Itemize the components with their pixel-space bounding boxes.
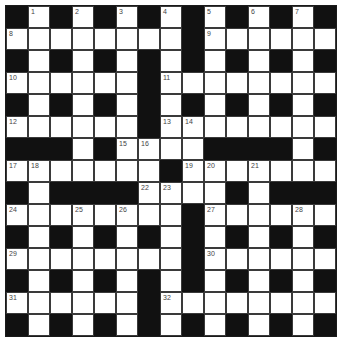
answer-cell[interactable]: [226, 72, 248, 94]
answer-cell[interactable]: [248, 50, 270, 72]
answer-cell[interactable]: [72, 72, 94, 94]
answer-cell[interactable]: [292, 94, 314, 116]
answer-cell[interactable]: [28, 182, 50, 204]
answer-cell[interactable]: [226, 28, 248, 50]
answer-cell[interactable]: 11: [160, 72, 182, 94]
answer-cell[interactable]: [50, 204, 72, 226]
answer-cell[interactable]: [204, 72, 226, 94]
answer-cell[interactable]: [292, 138, 314, 160]
answer-cell[interactable]: [50, 292, 72, 314]
answer-cell[interactable]: [72, 270, 94, 292]
answer-cell[interactable]: [226, 160, 248, 182]
answer-cell[interactable]: [50, 116, 72, 138]
answer-cell[interactable]: [226, 204, 248, 226]
answer-cell[interactable]: [160, 314, 182, 336]
answer-cell[interactable]: [94, 204, 116, 226]
answer-cell[interactable]: [204, 94, 226, 116]
answer-cell[interactable]: 20: [204, 160, 226, 182]
answer-cell[interactable]: [116, 28, 138, 50]
answer-cell[interactable]: [94, 248, 116, 270]
answer-cell[interactable]: [72, 28, 94, 50]
answer-cell[interactable]: [116, 314, 138, 336]
answer-cell[interactable]: [28, 94, 50, 116]
answer-cell[interactable]: [270, 204, 292, 226]
answer-cell[interactable]: [28, 248, 50, 270]
answer-cell[interactable]: [182, 72, 204, 94]
answer-cell[interactable]: [292, 270, 314, 292]
answer-cell[interactable]: [270, 72, 292, 94]
answer-cell[interactable]: [28, 270, 50, 292]
answer-cell[interactable]: [248, 72, 270, 94]
answer-cell[interactable]: 26: [116, 204, 138, 226]
answer-cell[interactable]: [226, 292, 248, 314]
answer-cell[interactable]: [72, 292, 94, 314]
answer-cell[interactable]: [160, 270, 182, 292]
answer-cell[interactable]: [72, 160, 94, 182]
answer-cell[interactable]: [116, 50, 138, 72]
answer-cell[interactable]: 27: [204, 204, 226, 226]
answer-cell[interactable]: [72, 94, 94, 116]
answer-cell[interactable]: [182, 138, 204, 160]
answer-cell[interactable]: [204, 116, 226, 138]
answer-cell[interactable]: [28, 72, 50, 94]
answer-cell[interactable]: [116, 248, 138, 270]
answer-cell[interactable]: 6: [248, 6, 270, 28]
answer-cell[interactable]: [50, 28, 72, 50]
answer-cell[interactable]: 28: [292, 204, 314, 226]
answer-cell[interactable]: [138, 160, 160, 182]
answer-cell[interactable]: [204, 292, 226, 314]
answer-cell[interactable]: [270, 28, 292, 50]
answer-cell[interactable]: [314, 292, 336, 314]
answer-cell[interactable]: [50, 72, 72, 94]
answer-cell[interactable]: [248, 204, 270, 226]
answer-cell[interactable]: [270, 160, 292, 182]
answer-cell[interactable]: [204, 182, 226, 204]
answer-cell[interactable]: [248, 226, 270, 248]
answer-cell[interactable]: [160, 138, 182, 160]
answer-cell[interactable]: 23: [160, 182, 182, 204]
answer-cell[interactable]: 13: [160, 116, 182, 138]
answer-cell[interactable]: [314, 204, 336, 226]
answer-cell[interactable]: [292, 72, 314, 94]
answer-cell[interactable]: [248, 314, 270, 336]
answer-cell[interactable]: 3: [116, 6, 138, 28]
answer-cell[interactable]: [50, 248, 72, 270]
answer-cell[interactable]: 7: [292, 6, 314, 28]
answer-cell[interactable]: [28, 314, 50, 336]
answer-cell[interactable]: 15: [116, 138, 138, 160]
answer-cell[interactable]: 5: [204, 6, 226, 28]
answer-cell[interactable]: [182, 182, 204, 204]
answer-cell[interactable]: [226, 116, 248, 138]
answer-cell[interactable]: [28, 28, 50, 50]
answer-cell[interactable]: [270, 292, 292, 314]
answer-cell[interactable]: 25: [72, 204, 94, 226]
answer-cell[interactable]: [248, 248, 270, 270]
answer-cell[interactable]: 8: [6, 28, 28, 50]
answer-cell[interactable]: [292, 160, 314, 182]
answer-cell[interactable]: [160, 28, 182, 50]
answer-cell[interactable]: [116, 270, 138, 292]
answer-cell[interactable]: [94, 28, 116, 50]
answer-cell[interactable]: [248, 116, 270, 138]
answer-cell[interactable]: 12: [6, 116, 28, 138]
answer-cell[interactable]: [116, 72, 138, 94]
answer-cell[interactable]: [138, 28, 160, 50]
answer-cell[interactable]: 32: [160, 292, 182, 314]
answer-cell[interactable]: [314, 28, 336, 50]
answer-cell[interactable]: [270, 116, 292, 138]
answer-cell[interactable]: [314, 116, 336, 138]
answer-cell[interactable]: [182, 292, 204, 314]
answer-cell[interactable]: [72, 138, 94, 160]
answer-cell[interactable]: 17: [6, 160, 28, 182]
answer-cell[interactable]: [116, 292, 138, 314]
answer-cell[interactable]: [116, 226, 138, 248]
answer-cell[interactable]: [270, 248, 292, 270]
answer-cell[interactable]: [248, 28, 270, 50]
answer-cell[interactable]: [248, 94, 270, 116]
answer-cell[interactable]: [248, 270, 270, 292]
answer-cell[interactable]: 29: [6, 248, 28, 270]
answer-cell[interactable]: [292, 28, 314, 50]
answer-cell[interactable]: [28, 50, 50, 72]
answer-cell[interactable]: 21: [248, 160, 270, 182]
answer-cell[interactable]: [292, 314, 314, 336]
